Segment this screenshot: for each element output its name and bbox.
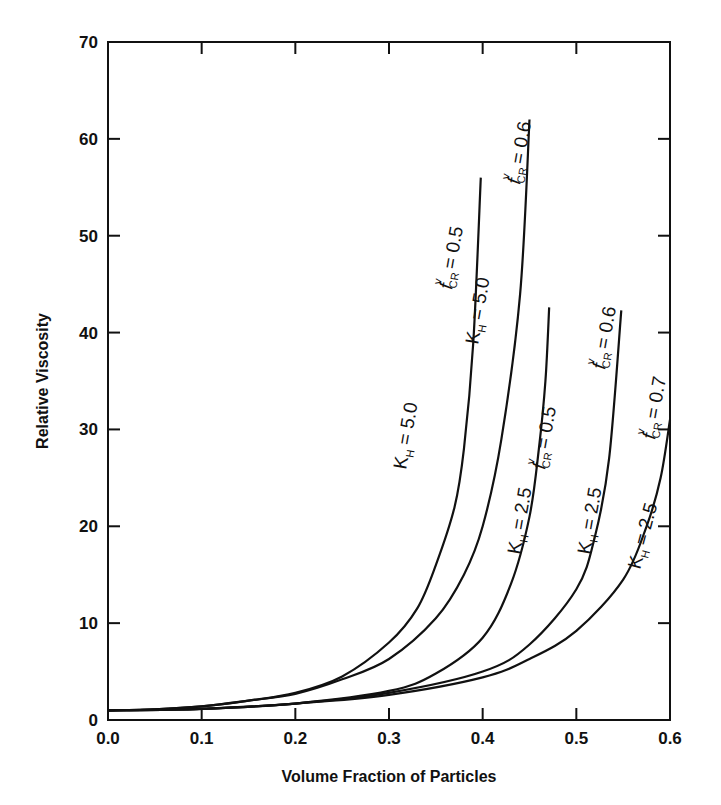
curves xyxy=(108,119,670,710)
y-tick-label: 50 xyxy=(79,227,98,246)
y-tick-label: 0 xyxy=(89,711,98,730)
kh-label: KH= 2.5 xyxy=(624,500,665,571)
curve-line xyxy=(108,307,549,710)
kh-label: KH= 5.0 xyxy=(389,401,424,472)
curve-labels: KH= 5.0fvCR= 0.5KH= 5.0fvCR= 0.6KH= 2.5f… xyxy=(389,119,672,572)
kh-label: KH= 5.0 xyxy=(461,276,496,347)
kh-label: KH= 2.5 xyxy=(573,486,608,557)
y-axis-title: Relative Viscosity xyxy=(34,313,51,449)
f-cr-label: fvCR= 0.5 xyxy=(523,404,562,471)
plot-axes: 0102030405060700.00.10.20.30.40.50.6 xyxy=(79,33,682,748)
y-tick-label: 60 xyxy=(79,130,98,149)
curve-line xyxy=(108,310,621,710)
viscosity-chart: 0102030405060700.00.10.20.30.40.50.6 KH=… xyxy=(0,0,721,805)
f-cr-label: fvCR= 0.5 xyxy=(430,224,469,291)
x-tick-label: 0.3 xyxy=(377,729,401,748)
kh-label: KH= 2.5 xyxy=(503,486,538,557)
x-tick-label: 0.4 xyxy=(471,729,495,748)
y-tick-label: 70 xyxy=(79,33,98,52)
x-tick-label: 0.0 xyxy=(96,729,120,748)
x-tick-label: 0.2 xyxy=(284,729,308,748)
f-cr-label: fvCR= 0.6 xyxy=(583,304,622,371)
curve-line xyxy=(108,119,530,710)
x-tick-label: 0.6 xyxy=(658,729,682,748)
y-tick-label: 10 xyxy=(79,614,98,633)
f-cr-label: fvCR= 0.7 xyxy=(633,374,672,441)
plot-frame xyxy=(108,42,670,720)
x-tick-label: 0.5 xyxy=(565,729,589,748)
f-cr-label: fvCR= 0.6 xyxy=(498,119,537,186)
figure-caption-cut xyxy=(0,793,721,805)
y-tick-label: 30 xyxy=(79,420,98,439)
y-tick-label: 20 xyxy=(79,517,98,536)
x-tick-label: 0.1 xyxy=(190,729,214,748)
x-axis-title: Volume Fraction of Particles xyxy=(282,768,497,785)
y-tick-label: 40 xyxy=(79,324,98,343)
